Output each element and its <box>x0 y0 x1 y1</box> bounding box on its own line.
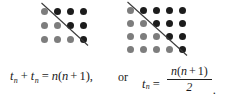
or-conjunction: or <box>118 70 128 85</box>
n-symbol: n <box>181 64 187 78</box>
dot-dark <box>179 20 186 27</box>
fraction: n(n+1) 2 <box>167 65 212 93</box>
fraction-numerator: n(n+1) <box>169 65 210 78</box>
dot-dark <box>153 7 160 14</box>
left-dot-array <box>41 8 94 58</box>
equals-operator: = <box>153 78 160 91</box>
dot-dark <box>67 8 74 15</box>
dot-light <box>67 36 74 43</box>
dot-dark <box>166 20 173 27</box>
right-dot-array <box>127 2 193 58</box>
t-subscript: n <box>14 77 18 85</box>
plus-operator: + <box>70 70 77 83</box>
dot-light <box>140 46 147 53</box>
t-subscript: n <box>35 77 39 85</box>
dot-light <box>127 7 134 14</box>
dot-light <box>166 46 173 53</box>
dot-dark <box>179 33 186 40</box>
dot-light <box>153 46 160 53</box>
equation-right: tn = n(n+1) 2 . <box>142 70 216 94</box>
plus-operator: + <box>21 70 28 83</box>
dot-light <box>127 46 134 53</box>
dot-dark <box>153 20 160 27</box>
dot-light <box>54 36 61 43</box>
fraction-denominator: 2 <box>186 81 192 94</box>
dot-dark <box>166 33 173 40</box>
dot-dark <box>80 22 87 29</box>
dot-light <box>140 20 147 27</box>
equation-left: tn + tn = n(n+1), <box>10 70 93 83</box>
dot-dark <box>54 8 61 15</box>
t-subscript: n <box>146 83 150 91</box>
close-paren: ) <box>204 64 208 78</box>
dot-dark <box>80 8 87 15</box>
left-diagonal-separator <box>41 8 94 58</box>
dot-light <box>41 36 48 43</box>
formula-row: tn + tn = n(n+1), or tn = n(n+1) 2 . <box>0 60 231 94</box>
n-symbol: n <box>62 70 68 83</box>
dot-light <box>54 22 61 29</box>
dot-light <box>140 33 147 40</box>
comma-punct: , <box>90 70 93 83</box>
dot-dark <box>140 7 147 14</box>
dot-dark <box>80 36 87 43</box>
plus-operator: + <box>189 64 196 78</box>
dot-light <box>153 33 160 40</box>
period-punct: . <box>213 84 216 94</box>
dot-light <box>41 8 48 15</box>
dot-dark <box>166 7 173 14</box>
dot-light <box>41 22 48 29</box>
dot-dark <box>179 46 186 53</box>
dot-light <box>127 33 134 40</box>
equals-operator: = <box>42 70 49 83</box>
dot-dark <box>67 22 74 29</box>
figure-root: tn + tn = n(n+1), or tn = n(n+1) 2 . <box>0 0 231 94</box>
dot-dark <box>179 7 186 14</box>
dot-light <box>127 20 134 27</box>
